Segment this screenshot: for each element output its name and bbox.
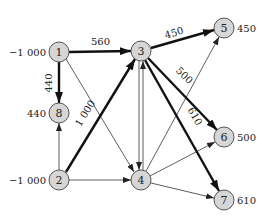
supply-label: −1 000 <box>9 175 46 186</box>
node-4: 4 <box>131 170 151 190</box>
flow-label-3-6: 500 <box>174 65 195 86</box>
edge-4-6 <box>150 142 215 176</box>
node-label: 7 <box>221 194 228 207</box>
node-label: 6 <box>221 131 228 144</box>
node-5: 5 450 <box>214 18 256 38</box>
node-label: 3 <box>138 45 145 58</box>
network-flow-diagram: 560 440 1 000 450 500 610 1 −1 000 2 −1 … <box>0 0 272 224</box>
demand-label: 610 <box>237 195 256 206</box>
edge-4-7 <box>151 183 214 198</box>
node-label: 8 <box>56 107 63 120</box>
flow-label-3-7: 610 <box>185 105 204 127</box>
node-6: 6 500 <box>214 127 256 147</box>
node-2: 2 −1 000 <box>9 170 69 190</box>
flow-label-2-3: 1 000 <box>73 98 98 128</box>
node-7: 7 610 <box>214 190 256 210</box>
node-label: 5 <box>221 22 228 35</box>
edge-1-3 <box>69 51 131 52</box>
node-8: 8 440 <box>27 103 69 123</box>
demand-label: 440 <box>27 108 46 119</box>
node-3: 3 <box>131 41 151 61</box>
node-label: 1 <box>56 46 63 59</box>
supply-label: −1 000 <box>9 47 46 58</box>
node-label: 4 <box>138 174 145 187</box>
edge-4-5 <box>146 37 219 171</box>
demand-label: 450 <box>237 23 256 34</box>
node-label: 2 <box>56 174 63 187</box>
demand-label: 500 <box>237 132 256 143</box>
flow-label-1-3: 560 <box>91 36 110 47</box>
node-1: 1 −1 000 <box>9 42 69 62</box>
flow-label-1-8: 440 <box>43 73 54 92</box>
